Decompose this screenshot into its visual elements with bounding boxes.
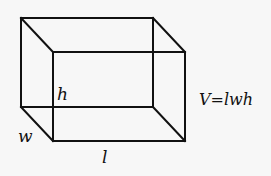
front-face (53, 52, 185, 141)
width-label: w (18, 126, 33, 146)
back-face (21, 18, 153, 107)
height-label: h (57, 84, 68, 104)
depth-edge-top-left (21, 18, 53, 52)
depth-edge-top-right (153, 18, 185, 52)
depth-edges (21, 18, 185, 141)
length-label: l (102, 147, 107, 167)
depth-edge-bottom-right (153, 107, 185, 141)
volume-formula: V=lwh (199, 90, 253, 109)
box-diagram: h w l V=lwh (0, 0, 271, 176)
